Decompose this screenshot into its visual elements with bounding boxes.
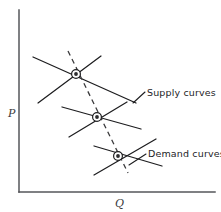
demand-curve-1 xyxy=(33,57,136,103)
x-axis-label: Q xyxy=(115,197,124,210)
supply-curves-leader-line xyxy=(133,92,145,103)
y-axis-label: P xyxy=(7,107,16,120)
axes-group xyxy=(19,10,215,192)
supply-curve-3 xyxy=(94,139,156,175)
supply-demand-figure: P Q Supply curves Demand curves xyxy=(0,0,221,212)
demand-curves-leader-line xyxy=(129,154,146,165)
equilibrium-marker xyxy=(114,152,123,161)
demand-curves-label: Demand curves xyxy=(148,148,221,159)
equilibrium-marker xyxy=(72,70,81,79)
diagram-canvas: P Q Supply curves Demand curves xyxy=(0,0,221,212)
equilibrium-marker xyxy=(93,113,102,122)
supply-curves-label: Supply curves xyxy=(147,87,216,98)
